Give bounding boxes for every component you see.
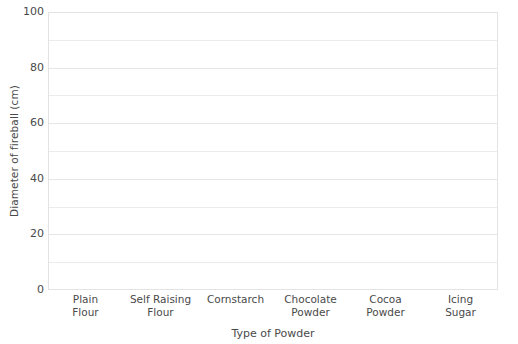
gridline xyxy=(49,68,497,69)
x-tick-label: IcingSugar xyxy=(423,293,498,323)
x-tick-label: Cornstarch xyxy=(198,293,273,323)
x-axis-title: Type of Powder xyxy=(48,327,498,340)
y-tick-label: 80 xyxy=(2,61,44,74)
y-tick-label: 100 xyxy=(2,5,44,18)
y-tick-label: 40 xyxy=(2,172,44,185)
gridline xyxy=(49,40,497,41)
x-tick-label-line2: Powder xyxy=(273,306,348,319)
chart-figure: Diameter of fireball (cm) 020406080100 P… xyxy=(0,0,518,344)
y-tick-label: 0 xyxy=(2,283,44,296)
gridline xyxy=(49,123,497,124)
x-tick-label-line1: Self Raising xyxy=(130,293,191,305)
gridline xyxy=(49,207,497,208)
plot-area xyxy=(48,12,498,290)
x-tick-label-line2: Sugar xyxy=(423,306,498,319)
x-tick-label: Self RaisingFlour xyxy=(123,293,198,323)
gridline xyxy=(49,179,497,180)
x-tick-label-line1: Plain xyxy=(73,293,98,305)
y-tick-label: 20 xyxy=(2,227,44,240)
x-tick-label-line1: Cornstarch xyxy=(207,293,264,305)
x-axis-tick-labels: PlainFlourSelf RaisingFlourCornstarchCho… xyxy=(48,293,498,323)
gridline xyxy=(49,262,497,263)
gridline xyxy=(49,151,497,152)
x-tick-label-line2: Flour xyxy=(123,306,198,319)
x-tick-label-line1: Chocolate xyxy=(284,293,337,305)
gridline xyxy=(49,234,497,235)
x-tick-label-line2: Powder xyxy=(348,306,423,319)
y-axis-tick-labels: 020406080100 xyxy=(0,0,44,344)
x-tick-label-line2: Flour xyxy=(48,306,123,319)
x-tick-label: CocoaPowder xyxy=(348,293,423,323)
x-tick-label-line1: Icing xyxy=(448,293,473,305)
y-tick-label: 60 xyxy=(2,116,44,129)
x-tick-label: PlainFlour xyxy=(48,293,123,323)
x-tick-label-line1: Cocoa xyxy=(369,293,401,305)
gridline xyxy=(49,95,497,96)
x-tick-label: ChocolatePowder xyxy=(273,293,348,323)
